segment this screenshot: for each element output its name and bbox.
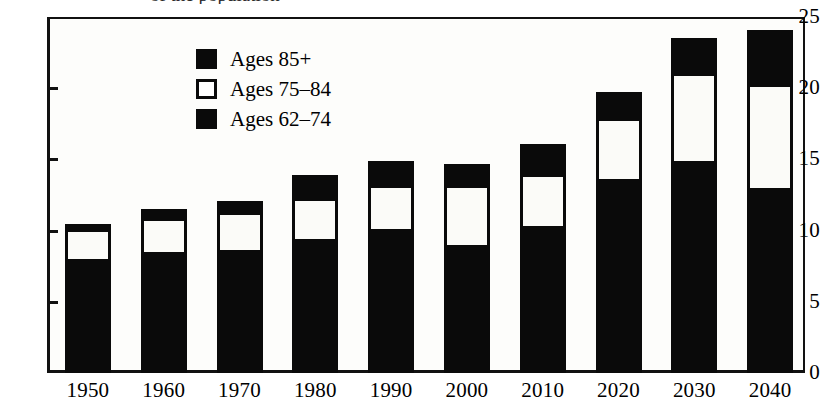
- y-tick-mark-20: [47, 87, 58, 90]
- bar-segment-2000-series-0: [444, 248, 490, 373]
- bar-1990: [368, 161, 414, 373]
- bar-2010: [520, 144, 566, 373]
- bar-segment-2010-series-2: [520, 144, 566, 174]
- bar-1970: [217, 201, 263, 373]
- y-tick-mark-5: [47, 301, 58, 304]
- bar-1960: [141, 209, 187, 373]
- bar-segment-2040-series-0: [747, 191, 793, 373]
- legend-swatch-black-0: [196, 49, 217, 69]
- bar-segment-1970-series-0: [217, 253, 263, 373]
- y-tick-mark-10: [47, 230, 58, 233]
- bar-segment-2040-series-1: [747, 84, 793, 191]
- legend-swatch-white-1: [196, 79, 217, 99]
- legend-label-2: Ages 62–74: [230, 108, 331, 130]
- bar-segment-1950-series-2: [65, 224, 111, 230]
- bar-segment-2000-series-1: [444, 185, 490, 248]
- bar-1950: [65, 223, 111, 373]
- chart-legend: Ages 85+Ages 75–84Ages 62–74: [196, 46, 331, 136]
- bar-1980: [292, 175, 338, 373]
- bar-segment-1990-series-1: [368, 185, 414, 232]
- bar-2020: [596, 92, 642, 373]
- x-tick-label-2040: 2040: [725, 379, 815, 402]
- bar-2000: [444, 164, 490, 373]
- bar-segment-2020-series-2: [596, 92, 642, 118]
- bar-segment-2030-series-0: [671, 164, 717, 373]
- bar-segment-1990-series-2: [368, 161, 414, 185]
- bar-segment-1960-series-1: [141, 218, 187, 255]
- bar-segment-1960-series-0: [141, 255, 187, 373]
- legend-swatch-black-2: [196, 109, 217, 129]
- bar-segment-1950-series-1: [65, 229, 111, 262]
- bar-segment-1980-series-0: [292, 242, 338, 373]
- y-tick-mark-15: [47, 158, 58, 161]
- bar-segment-2040-series-2: [747, 30, 793, 84]
- bar-segment-2020-series-0: [596, 182, 642, 373]
- bar-segment-1980-series-2: [292, 175, 338, 198]
- legend-item-0: Ages 85+: [196, 46, 331, 72]
- bar-segment-1950-series-0: [65, 262, 111, 373]
- bar-segment-1970-series-1: [217, 212, 263, 253]
- bar-segment-2010-series-0: [520, 229, 566, 373]
- bar-segment-1960-series-2: [141, 209, 187, 218]
- legend-label-1: Ages 75–84: [230, 78, 331, 100]
- bar-2040: [747, 30, 793, 373]
- y-tick-label-25: 25: [782, 6, 820, 27]
- cropped-caption-text: of the population: [150, 0, 290, 4]
- bar-segment-1970-series-2: [217, 201, 263, 212]
- stacked-bar-chart: of the population 0510152025 19501960197…: [0, 0, 820, 410]
- bar-segment-2000-series-2: [444, 164, 490, 185]
- bar-segment-1980-series-1: [292, 198, 338, 242]
- bar-segment-1990-series-0: [368, 232, 414, 373]
- bar-segment-2030-series-2: [671, 38, 717, 72]
- legend-item-2: Ages 62–74: [196, 106, 331, 132]
- legend-item-1: Ages 75–84: [196, 76, 331, 102]
- bar-segment-2010-series-1: [520, 174, 566, 230]
- bar-segment-2030-series-1: [671, 73, 717, 164]
- bar-segment-2020-series-1: [596, 118, 642, 182]
- cropped-caption-sliver: of the population: [150, 0, 290, 4]
- bar-2030: [671, 38, 717, 373]
- legend-label-0: Ages 85+: [230, 48, 311, 70]
